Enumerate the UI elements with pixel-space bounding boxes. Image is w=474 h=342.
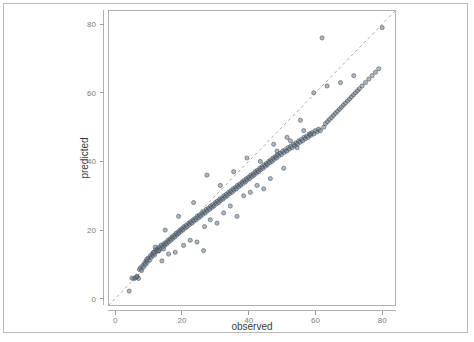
data-point (338, 80, 342, 84)
data-point (127, 289, 131, 293)
data-point (302, 128, 306, 132)
data-point (308, 132, 312, 136)
data-point (166, 252, 170, 256)
data-points-layer (127, 26, 384, 294)
data-point (208, 218, 212, 222)
data-point (156, 249, 160, 253)
data-point (352, 74, 356, 78)
data-point (282, 166, 286, 170)
data-point (295, 146, 299, 150)
data-point (285, 135, 289, 139)
data-point (318, 128, 322, 132)
y-axis-title: predicted (79, 137, 90, 178)
data-point (195, 240, 199, 244)
data-point (215, 221, 219, 225)
data-point (248, 190, 252, 194)
figure-root: 020406080 020406080 observed predicted (0, 0, 474, 342)
data-point (275, 149, 279, 153)
data-point (288, 139, 292, 143)
data-point (262, 187, 266, 191)
data-point (370, 74, 374, 78)
scatter-plot: 020406080 020406080 observed predicted (0, 0, 474, 342)
x-tick-label: 20 (177, 316, 186, 325)
data-point (135, 274, 139, 278)
data-point (232, 170, 236, 174)
y-tick-label: 60 (87, 89, 96, 98)
data-point (160, 259, 164, 263)
y-tick-label: 0 (92, 295, 97, 304)
data-point (255, 183, 259, 187)
data-point (235, 214, 239, 218)
data-point (242, 194, 246, 198)
data-point (188, 238, 192, 242)
data-point (380, 26, 384, 30)
data-point (320, 36, 324, 40)
data-point (377, 67, 381, 71)
data-point (202, 249, 206, 253)
data-point (373, 70, 377, 74)
data-point (203, 225, 207, 229)
x-tick-label: 80 (378, 316, 387, 325)
data-point (298, 118, 302, 122)
data-point (325, 84, 329, 88)
data-point (173, 250, 177, 254)
y-tick-label: 80 (87, 20, 96, 29)
data-point (245, 156, 249, 160)
data-point (360, 84, 364, 88)
x-tick-label: 60 (311, 316, 320, 325)
data-point (145, 257, 149, 261)
data-point (228, 204, 232, 208)
x-axis-title: observed (231, 321, 272, 332)
data-point (258, 159, 262, 163)
y-tick-label: 20 (87, 226, 96, 235)
data-point (153, 245, 157, 249)
data-point (205, 173, 209, 177)
data-point (367, 77, 371, 81)
data-point (222, 211, 226, 215)
data-point (218, 183, 222, 187)
data-point (312, 91, 316, 95)
data-point (192, 200, 196, 204)
data-point (363, 80, 367, 84)
data-point (272, 142, 276, 146)
data-point (176, 214, 180, 218)
identity-reference-line (109, 11, 396, 306)
data-point (268, 176, 272, 180)
data-point (161, 247, 165, 251)
data-point (181, 243, 185, 247)
data-point (151, 250, 155, 254)
data-point (163, 228, 167, 232)
x-tick-label: 0 (113, 316, 118, 325)
